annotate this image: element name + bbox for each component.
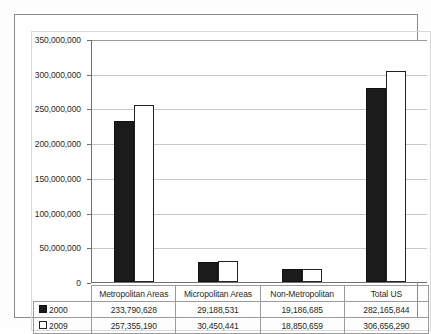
column-header-non-metropolitan: Non-Metropolitan [260, 286, 344, 302]
y-tick-mark [87, 283, 91, 284]
cell-2009-non-metropolitan: 18,850,659 [260, 318, 344, 334]
bar-group-non-metropolitan [260, 40, 344, 282]
data-table-region: Metropolitan Areas Micropolitan Areas No… [33, 285, 429, 331]
cell-2000-total-us: 282,165,844 [344, 302, 428, 318]
bar-2000-total-us [366, 88, 386, 282]
plot-area [91, 40, 427, 283]
column-header-metropolitan: Metropolitan Areas [92, 286, 176, 302]
bar-2009-micropolitan [218, 261, 238, 282]
bar-2009-metropolitan [134, 105, 154, 282]
y-tick-label: 300,000,000 [35, 71, 81, 79]
cell-2009-metropolitan: 257,355,190 [92, 318, 176, 334]
y-tick-label: 50,000,000 [39, 244, 81, 252]
cell-2009-total-us: 306,656,290 [344, 318, 428, 334]
chart-frame: 350,000,000 300,000,000 250,000,000 200,… [14, 14, 418, 318]
cell-2000-metropolitan: 233,790,628 [92, 302, 176, 318]
bar-group-total-us [344, 40, 428, 282]
y-tick-label: 350,000,000 [35, 36, 81, 44]
bar-group-metropolitan [92, 40, 176, 282]
bar-2000-metropolitan [114, 121, 134, 282]
y-tick-label: 100,000,000 [35, 210, 81, 218]
table-row: 2000 233,790,628 29,188,531 19,186,685 2… [34, 302, 429, 318]
bar-2000-non-metropolitan [282, 269, 302, 282]
legend-item-2000: 2000 [34, 302, 92, 318]
y-tick-label: 200,000,000 [35, 140, 81, 148]
hollow-square-icon [39, 321, 47, 329]
y-axis: 350,000,000 300,000,000 250,000,000 200,… [33, 33, 87, 285]
bar-group-micropolitan [176, 40, 260, 282]
legend-label-2009: 2009 [49, 321, 68, 331]
data-table: Metropolitan Areas Micropolitan Areas No… [33, 285, 429, 334]
filled-square-icon [39, 305, 47, 313]
bar-2009-non-metropolitan [302, 269, 322, 282]
column-header-micropolitan: Micropolitan Areas [176, 286, 260, 302]
cell-2000-micropolitan: 29,188,531 [176, 302, 260, 318]
y-tick-label: 150,000,000 [35, 175, 81, 183]
table-row: 2009 257,355,190 30,450,441 18,850,659 3… [34, 318, 429, 334]
table-header-row: Metropolitan Areas Micropolitan Areas No… [34, 286, 429, 302]
table-corner-cell [34, 286, 92, 302]
legend-label-2000: 2000 [49, 305, 68, 315]
cell-2009-micropolitan: 30,450,441 [176, 318, 260, 334]
plot-region: 350,000,000 300,000,000 250,000,000 200,… [33, 33, 429, 285]
bar-2009-total-us [386, 71, 406, 282]
y-tick-label: 250,000,000 [35, 105, 81, 113]
column-header-total-us: Total US [344, 286, 428, 302]
bar-2000-micropolitan [198, 262, 218, 282]
legend-item-2009: 2009 [34, 318, 92, 334]
cell-2000-non-metropolitan: 19,186,685 [260, 302, 344, 318]
